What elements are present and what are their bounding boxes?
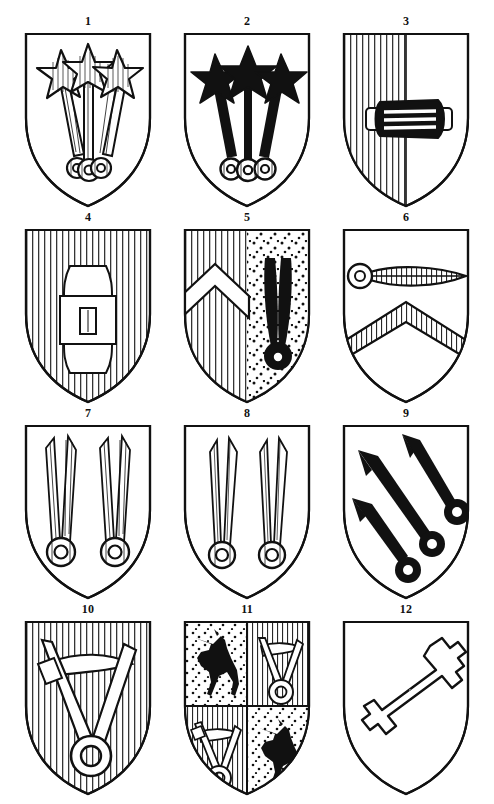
shield-label-2: 2 (167, 14, 327, 28)
shield-cell-1: 1 (8, 14, 168, 210)
shield-drawing-1 (8, 30, 168, 210)
field-dexter-paly (183, 228, 247, 406)
quarter-3-field (183, 706, 247, 798)
shield-cell-11: 11 (167, 602, 327, 798)
shield-cell-4: 4 (8, 210, 168, 406)
shield-drawing-6 (326, 226, 486, 406)
shield-drawing-7 (8, 422, 168, 602)
shield-cell-5: 5 (167, 210, 327, 406)
shield-drawing-4 (8, 226, 168, 406)
shield-label-7: 7 (8, 406, 168, 420)
shield-drawing-3 (326, 30, 486, 210)
shield-drawing-9 (326, 422, 486, 602)
shield-label-11: 11 (167, 602, 327, 616)
shield-label-1: 1 (8, 14, 168, 28)
shield-label-6: 6 (326, 210, 486, 224)
shield-drawing-8 (167, 422, 327, 602)
shield-cell-10: 10 (8, 602, 168, 798)
shield-cell-2: 2 (167, 14, 327, 210)
shield-cell-9: 9 (326, 406, 486, 602)
shield-label-8: 8 (167, 406, 327, 420)
shield-drawing-10 (8, 618, 168, 798)
shield-cell-7: 7 (8, 406, 168, 602)
shield-drawing-5 (167, 226, 327, 406)
shield-cell-6: 6 (326, 210, 486, 406)
shield-label-10: 10 (8, 602, 168, 616)
shield-label-12: 12 (326, 602, 486, 616)
shield-cell-3: 3 (326, 14, 486, 210)
shield-drawing-12 (326, 618, 486, 798)
shield-cell-8: 8 (167, 406, 327, 602)
shield-label-3: 3 (326, 14, 486, 28)
charge-barrel-fesswise (366, 100, 452, 138)
charge-barrel-palewise (60, 266, 116, 373)
shield-label-9: 9 (326, 406, 486, 420)
shield-cell-12: 12 (326, 602, 486, 798)
shield-drawing-2 (167, 30, 327, 210)
shield-label-4: 4 (8, 210, 168, 224)
shield-label-5: 5 (167, 210, 327, 224)
heraldic-plate: 1 (0, 0, 494, 804)
shield-drawing-11 (167, 618, 327, 798)
